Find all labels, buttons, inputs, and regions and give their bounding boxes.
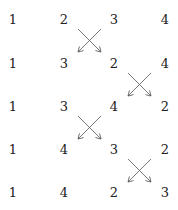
swap-cross-icon [128, 73, 151, 96]
swap-cross-icon [78, 29, 101, 52]
swap-arrows [0, 0, 178, 210]
swap-cross-icon [78, 116, 101, 139]
swap-cross-icon [128, 159, 151, 182]
